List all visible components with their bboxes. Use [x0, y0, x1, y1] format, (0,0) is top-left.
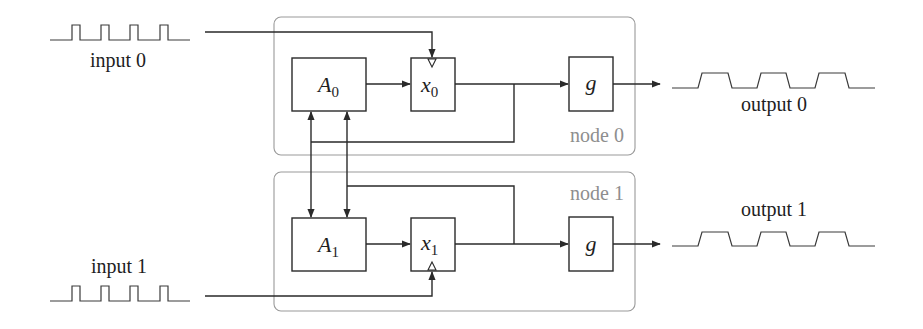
x0-subscript: 0	[431, 84, 439, 100]
g0-symbol: g	[586, 70, 597, 95]
x0-symbol: x	[420, 72, 431, 97]
g1-symbol: g	[586, 231, 597, 256]
a0-subscript: 0	[331, 84, 339, 100]
input-0-pulse-train-icon	[50, 25, 190, 40]
input-0-wire	[205, 32, 432, 57]
input-0-label: input 0	[90, 49, 146, 72]
a1-block: A1	[292, 218, 366, 271]
output-0-label: output 0	[741, 93, 807, 116]
input-1-pulse-train-icon	[50, 286, 190, 301]
g0-block: g	[569, 57, 613, 111]
x0-block: x0	[411, 58, 455, 111]
output-0-pulse-train-icon	[672, 73, 875, 88]
a0-symbol: A	[316, 72, 332, 97]
node-0-label: node 0	[570, 124, 624, 146]
a0-block: A0	[292, 58, 366, 111]
input-1-wire	[205, 272, 432, 296]
input-1-label: input 1	[91, 255, 147, 278]
output-1-label: output 1	[741, 198, 807, 221]
node-1-label: node 1	[570, 182, 624, 204]
x1-block: x1	[411, 218, 455, 271]
output-1-pulse-train-icon	[672, 232, 875, 246]
a1-symbol: A	[316, 232, 332, 257]
x1-subscript: 1	[431, 242, 439, 258]
g1-block: g	[569, 217, 613, 271]
x1-symbol: x	[420, 230, 431, 255]
a1-subscript: 1	[331, 244, 339, 260]
network-diagram: node 0 node 1 A0 x0 g A1 x1	[0, 0, 923, 329]
